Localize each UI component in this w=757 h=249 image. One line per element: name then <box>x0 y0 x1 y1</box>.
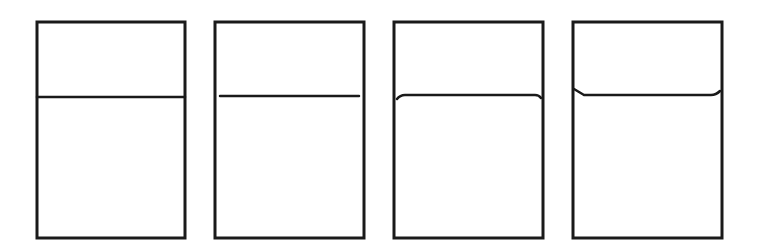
container-box <box>394 22 543 238</box>
container-box <box>37 22 185 238</box>
container-4 <box>573 22 722 238</box>
liquid-surface-line-convex-edges-curve-down <box>397 95 541 99</box>
panels-group <box>37 22 722 238</box>
container-2 <box>215 22 364 238</box>
container-1 <box>37 22 185 238</box>
container-3 <box>394 22 543 238</box>
liquid-surface-line-concave-edges-curve-up <box>574 89 720 95</box>
container-box <box>573 22 722 238</box>
meniscus-diagram <box>0 0 757 249</box>
container-box <box>215 22 364 238</box>
